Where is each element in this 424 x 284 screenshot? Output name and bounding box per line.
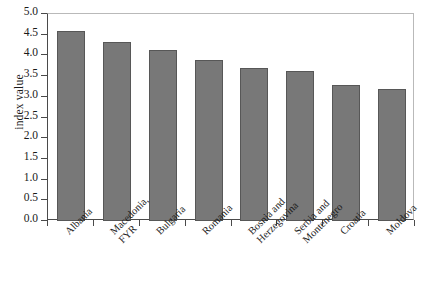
x-axis-tick-mark — [47, 220, 48, 226]
bar — [378, 89, 406, 221]
bar — [149, 50, 177, 221]
y-axis-tick-label: 2.5 — [24, 109, 38, 121]
y-axis-tick-label: 2.0 — [24, 129, 38, 141]
bar — [103, 42, 131, 221]
x-axis-tick-mark — [185, 220, 186, 226]
x-axis-tick-mark — [368, 220, 369, 226]
y-axis-tick-label: 1.5 — [24, 150, 38, 162]
scan-artifact — [0, 276, 424, 284]
y-axis-tick-label: 4.0 — [24, 46, 38, 58]
y-axis-tick-label: 3.5 — [24, 67, 38, 79]
y-axis-tick-label: 3.0 — [24, 88, 38, 100]
bar — [57, 31, 85, 221]
y-axis-tick-label: 0.0 — [24, 212, 38, 224]
plot-area — [47, 13, 414, 220]
x-axis-tick-mark — [93, 220, 94, 226]
y-axis-tick-label: 1.0 — [24, 171, 38, 183]
y-axis-tick-label: 5.0 — [24, 5, 38, 17]
y-axis-tick-label: 0.5 — [24, 191, 38, 203]
x-axis-tick-mark — [414, 220, 415, 226]
x-axis-tick-mark — [231, 220, 232, 226]
bar — [195, 60, 223, 221]
bar-chart: index value 5.04.54.03.53.02.52.01.51.00… — [0, 0, 424, 284]
y-axis-tick-label: 4.5 — [24, 26, 38, 38]
bar — [240, 68, 268, 221]
